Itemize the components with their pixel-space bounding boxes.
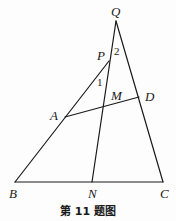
label-B: B [9, 186, 17, 201]
angle-2-label: 2 [114, 45, 120, 57]
label-C: C [160, 186, 169, 201]
label-M: M [110, 88, 123, 103]
figure-caption: 第 11 题图 [0, 202, 176, 218]
figure-svg: Q P D M A B N C 1 2 [0, 0, 176, 221]
geometry-figure: Q P D M A B N C 1 2 第 11 题图 [0, 0, 176, 221]
label-Q: Q [111, 4, 121, 19]
label-P: P [96, 48, 105, 63]
angle-1-label: 1 [97, 76, 103, 88]
label-D: D [144, 89, 155, 104]
label-N: N [87, 186, 98, 201]
label-A: A [49, 108, 58, 123]
